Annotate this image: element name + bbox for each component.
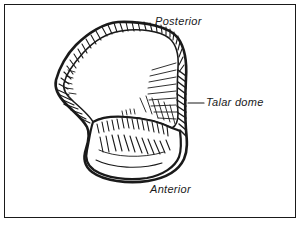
label-talar-dome: Talar dome xyxy=(206,97,264,108)
label-anterior: Anterior xyxy=(150,184,191,195)
bone-drawing xyxy=(55,22,204,182)
figure-root: Posterior Anterior Talar dome xyxy=(0,0,304,226)
label-posterior: Posterior xyxy=(155,16,202,27)
